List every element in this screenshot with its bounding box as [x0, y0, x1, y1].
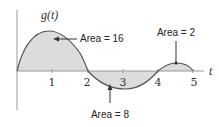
area-8-label: Area = 8 [91, 109, 130, 120]
tick-label-2: 2 [84, 76, 91, 89]
tick-label-1: 1 [49, 76, 56, 89]
area-under-curve-figure: g(t) t 1 2 3 4 5 Area = 16 Area = 2 Area… [0, 0, 219, 127]
function-label: g(t) [41, 8, 58, 22]
area-16-label: Area = 16 [80, 33, 124, 44]
tick-label-3: 3 [120, 76, 127, 89]
t-axis-label: t [209, 64, 213, 78]
region-positive-0-2 [17, 31, 88, 71]
chart-svg: g(t) t 1 2 3 4 5 Area = 16 Area = 2 Area… [0, 0, 219, 127]
tick-label-5: 5 [191, 76, 198, 89]
area-2-pointer-dot-icon [174, 61, 177, 64]
area-2-label: Area = 2 [157, 27, 196, 38]
tick-label-4: 4 [155, 76, 162, 89]
